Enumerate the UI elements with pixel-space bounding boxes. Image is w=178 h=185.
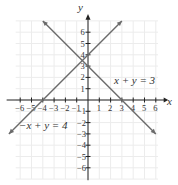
equation-label-2: −x + y = 4 (19, 119, 68, 131)
y-tick-label: 2 (81, 72, 85, 82)
y-tick-label: −4 (77, 140, 87, 150)
y-tick-label: −1 (77, 106, 86, 116)
y-axis-arrow-icon (86, 14, 91, 20)
y-tick-label: −2 (77, 118, 86, 128)
x-tick-label: 3 (119, 103, 123, 113)
x-axis-label: x (166, 95, 172, 107)
x-tick-label: 5 (142, 103, 146, 113)
y-tick-label: −6 (77, 163, 86, 173)
x-tick-label: −2 (60, 103, 69, 113)
y-tick-label: −3 (77, 129, 86, 139)
y-tick-label: 1 (81, 84, 85, 94)
x-tick-label: 6 (153, 103, 157, 113)
x-tick-label: 1 (97, 103, 101, 113)
coordinate-graph: −6−5−4−3−2−1123456654321−1−2−3−4−5−6 y x… (0, 0, 178, 185)
axes (7, 14, 169, 180)
x-tick-label: 2 (108, 103, 112, 113)
y-tick-label: 5 (81, 39, 85, 49)
x-tick-label: −6 (15, 103, 24, 113)
y-tick-label: −5 (77, 152, 86, 162)
x-tick-label: −3 (49, 103, 58, 113)
equation-label-1: x + y = 3 (113, 74, 156, 86)
y-tick-label: 6 (81, 27, 85, 37)
y-axis-label: y (77, 1, 83, 13)
